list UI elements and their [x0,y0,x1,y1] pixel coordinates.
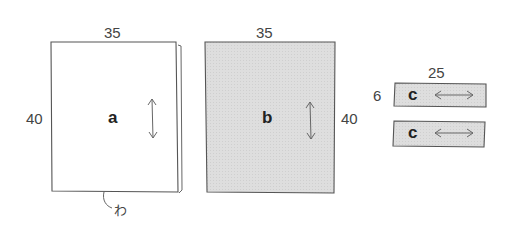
piece-a-width: 35 [104,24,121,41]
piece-a-height: 40 [26,110,43,127]
piece-c-height: 6 [373,87,381,104]
piece-c-width: 25 [428,64,445,81]
piece-c-2 [393,121,485,147]
piece-c2-label: c [408,123,417,143]
piece-a-label: a [108,108,117,128]
piece-b-height: 40 [341,110,358,127]
piece-c1-label: c [408,85,417,105]
fold-label: わ [114,200,127,219]
piece-b-label: b [262,108,272,128]
piece-b-width: 35 [256,24,273,41]
fold-leader-icon [103,192,112,208]
